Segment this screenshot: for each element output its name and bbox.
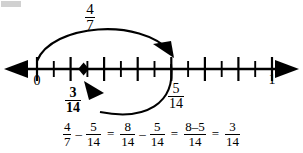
four-sevenths-numerator: 4 xyxy=(85,2,95,17)
number-line-diagram: 4 7 3 14 5 14 0 1 4 7 – 5 14 = 8 14 – xyxy=(0,0,303,153)
arc-four-sevenths xyxy=(37,29,174,61)
five-fourteenths-numerator: 5 xyxy=(168,82,184,96)
equation-minus-2: – xyxy=(136,126,149,142)
label-four-sevenths: 4 7 xyxy=(77,2,103,34)
five-fourteenths-denominator: 14 xyxy=(168,96,184,111)
equation-term-1: 4 7 xyxy=(63,120,72,148)
equation-equals-1: = xyxy=(102,126,119,142)
equation-term-5: 8–5 14 xyxy=(184,120,206,148)
equation-term-3: 8 14 xyxy=(120,120,135,148)
label-five-fourteenths: 5 14 xyxy=(162,82,190,112)
axis-arrow-left xyxy=(4,60,28,78)
equation-term-4: 5 14 xyxy=(150,120,165,148)
equation-row: 4 7 – 5 14 = 8 14 – 5 14 = 8–5 14 = 3 14 xyxy=(0,117,303,151)
label-three-fourteenths: 3 14 xyxy=(58,86,88,116)
equation-term-2: 5 14 xyxy=(86,120,101,148)
equation-equals-2: = xyxy=(166,126,183,142)
three-fourteenths-denominator: 14 xyxy=(65,100,81,115)
equation-minus-1: – xyxy=(72,126,85,142)
arc-five-fourteenths xyxy=(84,64,172,114)
equation-equals-3: = xyxy=(207,126,224,142)
arc-top-arrowhead xyxy=(153,41,174,58)
equation-term-6: 3 14 xyxy=(225,120,240,148)
four-sevenths-denominator: 7 xyxy=(85,17,95,33)
axis-label-one: 1 xyxy=(264,73,280,87)
three-fourteenths-numerator: 3 xyxy=(65,86,81,100)
axis-label-zero: 0 xyxy=(28,74,46,88)
